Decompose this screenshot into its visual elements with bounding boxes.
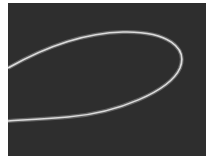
image-panel (8, 3, 206, 156)
loop-curve (8, 3, 206, 156)
